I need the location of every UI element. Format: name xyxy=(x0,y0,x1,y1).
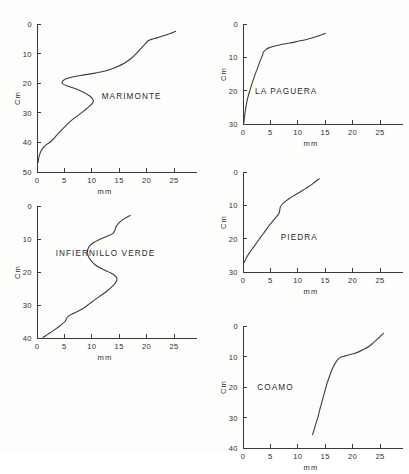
x-tick-label: 5 xyxy=(268,452,273,461)
x-axis-title: mm xyxy=(303,287,318,296)
y-tick-label: 0 xyxy=(233,20,238,29)
x-tick-label: 15 xyxy=(321,452,330,461)
y-tick-label: 10 xyxy=(229,353,238,362)
y-tick-label: 40 xyxy=(23,138,32,147)
y-tick-label: 0 xyxy=(233,322,238,331)
chart-svg-infiernillo-verde: 0510152025010203040mmCmINFIERNILLO VERDE xyxy=(8,190,213,368)
y-tick-label: 30 xyxy=(229,120,238,129)
axes-piedra xyxy=(243,172,403,272)
y-tick-label: 20 xyxy=(229,383,238,392)
x-tick-label: 10 xyxy=(293,452,302,461)
y-tick-label: 0 xyxy=(27,20,32,29)
y-axis-title: Cm xyxy=(219,67,228,81)
x-tick-label: 25 xyxy=(375,128,384,137)
x-tick-label: 10 xyxy=(87,176,96,185)
x-tick-label: 15 xyxy=(321,276,330,285)
y-axis-title: Cm xyxy=(219,215,228,229)
y-tick-label: 20 xyxy=(229,235,238,244)
y-tick-label: 30 xyxy=(23,301,32,310)
chart-panel-coamo: 0510152025010203040mmCmCOAMO xyxy=(214,312,409,474)
y-tick-label: 20 xyxy=(23,268,32,277)
chart-svg-coamo: 0510152025010203040mmCmCOAMO xyxy=(214,312,409,474)
y-tick-label: 0 xyxy=(27,202,32,211)
x-tick-label: 5 xyxy=(62,176,67,185)
chart-panel-la-paguera: 05101520250102030mmCmLA PAGUERA xyxy=(214,8,409,154)
x-axis-title: mm xyxy=(303,139,318,148)
x-tick-label: 20 xyxy=(142,342,151,351)
y-tick-label: 40 xyxy=(23,334,32,343)
x-tick-label: 0 xyxy=(241,452,246,461)
y-axis-title: Cm xyxy=(219,380,228,394)
chart-panel-marimonte: 051015202501020304050mmCmMARIMONTE xyxy=(8,8,213,202)
series-label-la-paguera: LA PAGUERA xyxy=(255,87,317,96)
x-tick-label: 10 xyxy=(293,276,302,285)
x-tick-label: 25 xyxy=(375,452,384,461)
y-tick-label: 30 xyxy=(23,109,32,118)
x-tick-label: 0 xyxy=(35,176,40,185)
x-tick-label: 25 xyxy=(169,176,178,185)
x-tick-label: 20 xyxy=(348,276,357,285)
x-tick-label: 25 xyxy=(169,342,178,351)
y-tick-label: 10 xyxy=(23,235,32,244)
y-tick-label: 50 xyxy=(23,168,32,177)
data-curve-piedra xyxy=(244,179,319,263)
axes-la-paguera xyxy=(243,24,403,124)
x-tick-label: 15 xyxy=(115,342,124,351)
series-label-piedra: PIEDRA xyxy=(281,233,318,242)
y-tick-label: 0 xyxy=(233,168,238,177)
chart-svg-marimonte: 051015202501020304050mmCmMARIMONTE xyxy=(8,8,213,202)
x-tick-label: 10 xyxy=(293,128,302,137)
x-tick-label: 15 xyxy=(321,128,330,137)
x-tick-label: 5 xyxy=(268,128,273,137)
x-tick-label: 15 xyxy=(115,176,124,185)
x-tick-label: 20 xyxy=(348,452,357,461)
x-tick-label: 10 xyxy=(87,342,96,351)
data-curve-coamo xyxy=(313,333,384,434)
y-axis-title: Cm xyxy=(13,91,22,105)
x-tick-label: 25 xyxy=(375,276,384,285)
y-tick-label: 30 xyxy=(229,268,238,277)
x-tick-label: 20 xyxy=(348,128,357,137)
x-axis-title: mm xyxy=(97,353,112,362)
x-tick-label: 0 xyxy=(241,128,246,137)
x-tick-label: 5 xyxy=(62,342,67,351)
y-tick-label: 20 xyxy=(229,87,238,96)
x-tick-label: 5 xyxy=(268,276,273,285)
y-tick-label: 20 xyxy=(23,79,32,88)
chart-svg-la-paguera: 05101520250102030mmCmLA PAGUERA xyxy=(214,8,409,154)
x-axis-title: mm xyxy=(303,463,318,472)
y-tick-label: 10 xyxy=(229,201,238,210)
y-axis-title: Cm xyxy=(13,265,22,279)
series-label-marimonte: MARIMONTE xyxy=(102,92,162,101)
y-tick-label: 30 xyxy=(229,414,238,423)
chart-panel-infiernillo-verde: 0510152025010203040mmCmINFIERNILLO VERDE xyxy=(8,190,213,368)
data-curve-la-paguera xyxy=(244,33,325,123)
x-tick-label: 20 xyxy=(142,176,151,185)
y-tick-label: 10 xyxy=(23,50,32,59)
y-tick-label: 10 xyxy=(229,53,238,62)
x-tick-label: 0 xyxy=(241,276,246,285)
y-tick-label: 40 xyxy=(229,444,238,453)
x-tick-label: 0 xyxy=(35,342,40,351)
chart-svg-piedra: 05101520250102030mmCmPIEDRA xyxy=(214,160,409,302)
series-label-coamo: COAMO xyxy=(257,383,293,392)
chart-panel-piedra: 05101520250102030mmCmPIEDRA xyxy=(214,160,409,302)
series-label-infiernillo-verde: INFIERNILLO VERDE xyxy=(56,249,156,258)
data-curve-infiernillo-verde xyxy=(43,216,130,338)
